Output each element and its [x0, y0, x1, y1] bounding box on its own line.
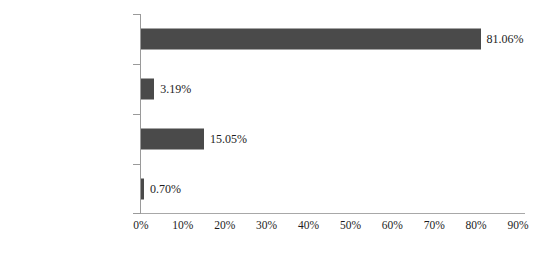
x-axis-tick-label: 0%	[133, 219, 148, 231]
bar-row: 违法行为 81.06%	[141, 14, 518, 64]
bar-value-label: 15.05%	[210, 132, 247, 147]
x-axis-tick-label: 10%	[172, 219, 193, 231]
bar-row: 不道德但可以原谅 3.19%	[141, 64, 518, 114]
bar[interactable]	[141, 179, 144, 200]
x-axis-tick-label: 60%	[382, 219, 403, 231]
bar[interactable]	[141, 29, 481, 50]
y-axis-tick	[133, 64, 141, 65]
y-axis-tick	[133, 164, 141, 165]
bar[interactable]	[141, 79, 154, 100]
x-axis-tick-label: 40%	[298, 219, 319, 231]
bar-chart: 违法行为 81.06% 不道德但可以原谅 3.19% 不道德且应受到谴责 15.…	[0, 0, 550, 268]
x-axis-tick-label: 30%	[256, 219, 277, 231]
bar-value-label: 0.70%	[150, 182, 181, 197]
x-axis-tick-label: 50%	[340, 219, 361, 231]
plot-area: 违法行为 81.06% 不道德但可以原谅 3.19% 不道德且应受到谴责 15.…	[141, 14, 518, 213]
bar-row: 不道德且应受到谴责 15.05%	[141, 114, 518, 164]
y-axis-tick	[133, 14, 141, 15]
y-axis-tick	[133, 213, 141, 214]
x-axis-tick-label: 70%	[424, 219, 445, 231]
bar-row: 正常行为 0.70%	[141, 164, 518, 214]
bar[interactable]	[141, 129, 204, 150]
y-axis-tick	[133, 114, 141, 115]
x-axis-tick-label: 20%	[214, 219, 235, 231]
bar-value-label: 81.06%	[487, 32, 524, 47]
x-axis-tick-label: 90%	[507, 219, 528, 231]
x-axis-tick-label: 80%	[466, 219, 487, 231]
bar-value-label: 3.19%	[160, 82, 191, 97]
